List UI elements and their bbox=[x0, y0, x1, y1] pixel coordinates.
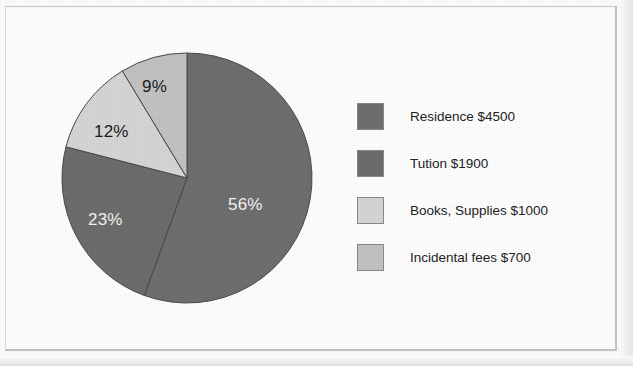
legend-item-tution[interactable]: Tution $1900 bbox=[357, 140, 587, 187]
page-edge-bottom bbox=[0, 356, 633, 366]
legend-item-residence[interactable]: Residence $4500 bbox=[357, 93, 587, 140]
legend-swatch-incidental-fees bbox=[357, 244, 384, 271]
legend-swatch-residence bbox=[357, 103, 384, 130]
chart-legend: Residence $4500 Tution $1900 Books, Supp… bbox=[357, 93, 587, 281]
pie-slice-group bbox=[62, 53, 312, 303]
pie-percent-label-books-supplies: 12% bbox=[94, 122, 129, 142]
legend-label-books-supplies: Books, Supplies $1000 bbox=[410, 203, 548, 218]
legend-swatch-books-supplies bbox=[357, 197, 384, 224]
pie-percent-label-tution: 23% bbox=[88, 210, 123, 230]
chart-page: 56%23%12%9% Residence $4500 Tution $1900… bbox=[0, 0, 633, 366]
legend-label-incidental-fees: Incidental fees $700 bbox=[410, 250, 531, 265]
legend-item-incidental-fees[interactable]: Incidental fees $700 bbox=[357, 234, 587, 281]
pie-percent-label-residence: 56% bbox=[228, 195, 263, 215]
legend-label-tution: Tution $1900 bbox=[410, 156, 488, 171]
legend-label-residence: Residence $4500 bbox=[410, 109, 515, 124]
legend-swatch-tution bbox=[357, 150, 384, 177]
legend-item-books-supplies[interactable]: Books, Supplies $1000 bbox=[357, 187, 587, 234]
pie-percent-label-incidental-fees: 9% bbox=[142, 77, 167, 97]
page-edge-right bbox=[619, 0, 633, 366]
